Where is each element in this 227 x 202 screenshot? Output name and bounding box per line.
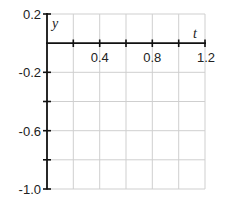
- x-tick-label: 0.4: [91, 50, 109, 65]
- y-tick-label: 0.2: [23, 7, 41, 22]
- x-tick-label: 0.8: [143, 50, 161, 65]
- x-tick-label: 1.2: [197, 50, 215, 65]
- y-axis-label: y: [50, 16, 59, 31]
- x-axis-label: t: [193, 26, 198, 41]
- y-tick-label: -1.0: [19, 182, 41, 197]
- y-tick-label: -0.2: [19, 65, 41, 80]
- chart: 0.4 0.8 1.2 0.2 -0.2 -0.6 -1.0 y t: [0, 0, 227, 202]
- y-tick-label: -0.6: [19, 124, 41, 139]
